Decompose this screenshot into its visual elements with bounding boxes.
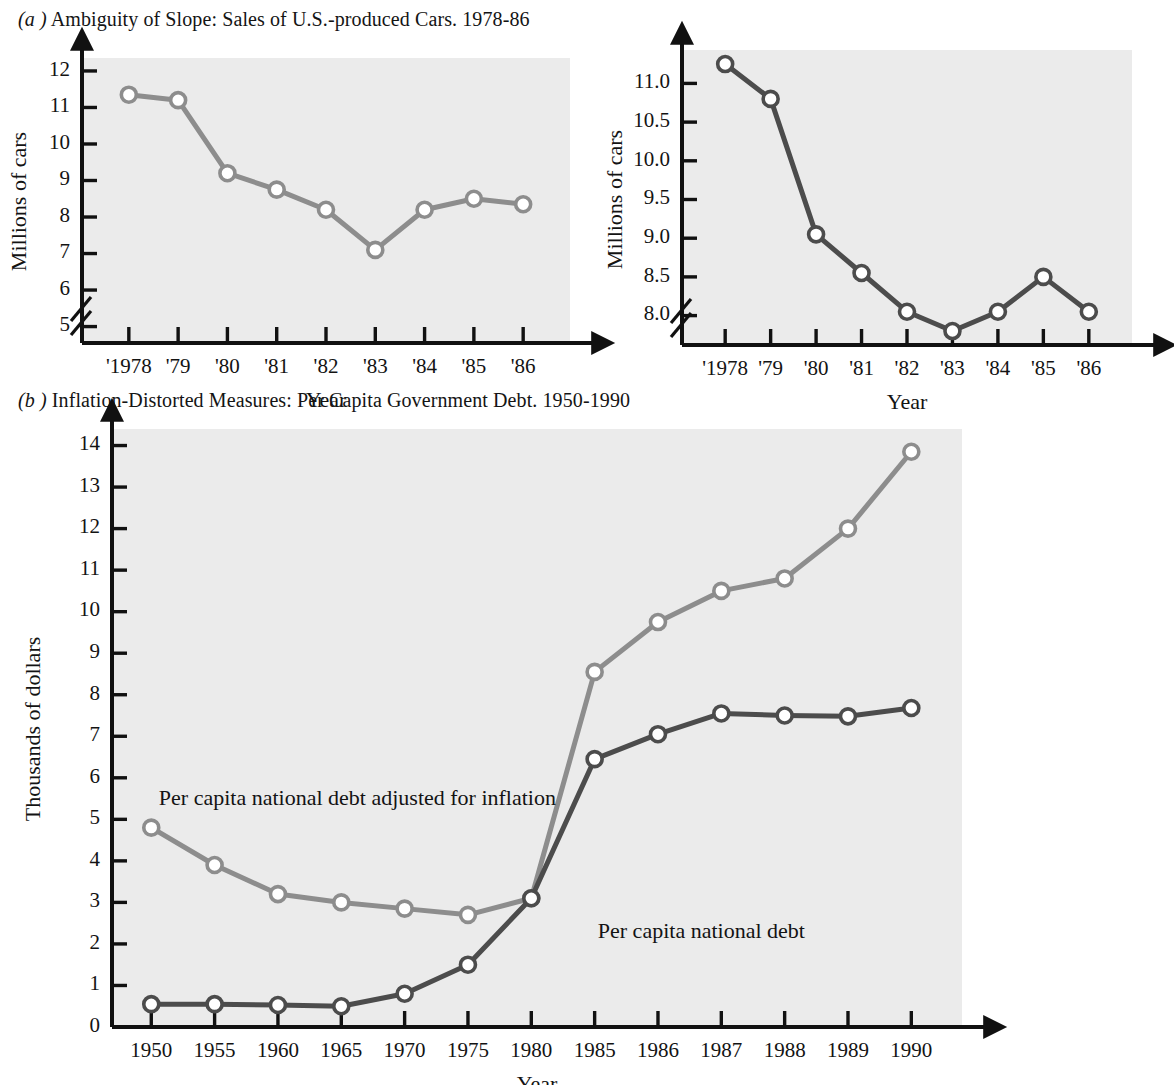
- caption-b-text: Inflation-Distorted Measures: Per Capita…: [52, 389, 630, 411]
- svg-text:10.5: 10.5: [633, 108, 670, 132]
- svg-text:5: 5: [60, 312, 71, 336]
- svg-text:9.5: 9.5: [644, 185, 670, 209]
- svg-text:Millions of cars: Millions of cars: [602, 130, 627, 269]
- svg-text:1960: 1960: [257, 1038, 299, 1062]
- svg-text:6: 6: [90, 764, 101, 788]
- svg-text:8.5: 8.5: [644, 263, 670, 287]
- svg-text:1987: 1987: [700, 1038, 742, 1062]
- svg-text:'86: '86: [511, 354, 536, 378]
- svg-text:7: 7: [90, 722, 101, 746]
- svg-text:'79: '79: [758, 356, 783, 380]
- caption-b: (b ) Inflation-Distorted Measures: Per C…: [18, 389, 630, 412]
- svg-text:11.0: 11.0: [634, 69, 670, 93]
- svg-text:1955: 1955: [194, 1038, 236, 1062]
- svg-text:'80: '80: [215, 354, 240, 378]
- svg-text:'86: '86: [1076, 356, 1101, 380]
- svg-text:Thousands of dollars: Thousands of dollars: [20, 637, 45, 822]
- svg-text:7: 7: [60, 239, 71, 263]
- svg-text:8.0: 8.0: [644, 301, 670, 325]
- svg-text:6: 6: [60, 276, 71, 300]
- svg-text:3: 3: [90, 888, 101, 912]
- svg-text:Per capita national debt: Per capita national debt: [598, 918, 805, 943]
- svg-text:'85: '85: [1031, 356, 1056, 380]
- svg-text:'84: '84: [986, 356, 1011, 380]
- svg-text:12: 12: [49, 57, 70, 81]
- svg-text:4: 4: [90, 847, 101, 871]
- svg-text:1986: 1986: [637, 1038, 679, 1062]
- svg-text:1950: 1950: [130, 1038, 172, 1062]
- svg-text:1989: 1989: [827, 1038, 869, 1062]
- svg-text:9: 9: [90, 639, 101, 663]
- svg-text:1990: 1990: [890, 1038, 932, 1062]
- svg-text:'80: '80: [804, 356, 829, 380]
- svg-text:8: 8: [90, 681, 101, 705]
- svg-text:'84: '84: [412, 354, 437, 378]
- svg-text:0: 0: [90, 1013, 101, 1037]
- svg-text:'81: '81: [849, 356, 874, 380]
- svg-text:Year: Year: [517, 1071, 558, 1085]
- svg-text:1970: 1970: [384, 1038, 426, 1062]
- svg-text:'83: '83: [363, 354, 388, 378]
- svg-text:'83: '83: [940, 356, 965, 380]
- svg-text:9: 9: [60, 166, 71, 190]
- svg-text:1988: 1988: [764, 1038, 806, 1062]
- chart-canvas: 0123456789101112131419501955196019651970…: [0, 415, 1174, 1085]
- svg-text:'82: '82: [314, 354, 339, 378]
- svg-text:12: 12: [79, 514, 100, 538]
- svg-text:1975: 1975: [447, 1038, 489, 1062]
- svg-text:1980: 1980: [510, 1038, 552, 1062]
- svg-text:1965: 1965: [320, 1038, 362, 1062]
- svg-text:2: 2: [90, 930, 101, 954]
- svg-text:14: 14: [79, 431, 101, 455]
- svg-text:9.0: 9.0: [644, 224, 670, 248]
- svg-text:5: 5: [90, 805, 101, 829]
- svg-text:10.0: 10.0: [633, 147, 670, 171]
- svg-text:11: 11: [50, 93, 70, 117]
- svg-text:1: 1: [90, 971, 101, 995]
- caption-a: (a ) Ambiguity of Slope: Sales of U.S.-p…: [18, 8, 530, 31]
- svg-text:'79: '79: [166, 354, 191, 378]
- svg-text:11: 11: [80, 556, 100, 580]
- caption-b-label: (b ): [18, 389, 47, 411]
- svg-text:8: 8: [60, 203, 71, 227]
- chart-cars-expanded-scale: 8.08.59.09.510.010.511.0'1978'79'80'81'8…: [600, 40, 1174, 385]
- chart-canvas: 8.08.59.09.510.010.511.0'1978'79'80'81'8…: [600, 40, 1174, 385]
- svg-text:'85: '85: [461, 354, 486, 378]
- svg-text:'1978: '1978: [702, 356, 748, 380]
- svg-text:'82: '82: [895, 356, 920, 380]
- caption-a-label: (a ): [18, 8, 47, 30]
- svg-text:'81: '81: [264, 354, 289, 378]
- svg-text:'1978: '1978: [106, 354, 152, 378]
- svg-text:Year: Year: [887, 389, 928, 414]
- svg-text:Per capita national debt adjus: Per capita national debt adjusted for in…: [159, 785, 556, 810]
- svg-text:1985: 1985: [574, 1038, 616, 1062]
- chart-cars-compressed-scale: 56789101112'1978'79'80'81'82'83'84'85'86…: [0, 40, 600, 385]
- svg-text:10: 10: [49, 130, 70, 154]
- svg-text:13: 13: [79, 473, 100, 497]
- chart-canvas: 56789101112'1978'79'80'81'82'83'84'85'86…: [0, 40, 600, 385]
- svg-text:10: 10: [79, 597, 100, 621]
- svg-text:Millions of cars: Millions of cars: [6, 132, 31, 271]
- caption-a-text: Ambiguity of Slope: Sales of U.S.-produc…: [51, 8, 530, 30]
- chart-per-capita-government-debt: 0123456789101112131419501955196019651970…: [0, 415, 1174, 1085]
